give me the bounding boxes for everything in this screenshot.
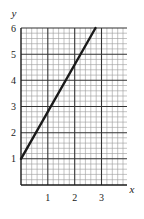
y-tick-6: 6: [11, 23, 16, 34]
y-tick-5: 5: [11, 49, 16, 60]
x-tick-1: 1: [45, 192, 50, 203]
x-tick-2: 2: [72, 192, 77, 203]
graph-figure: 6 5 4 3 2 1 1 2 3 y x: [0, 0, 144, 219]
y-tick-1: 1: [11, 153, 16, 164]
x-tick-3: 3: [99, 192, 104, 203]
y-tick-2: 2: [11, 127, 16, 138]
y-tick-3: 3: [11, 101, 16, 112]
y-tick-4: 4: [11, 75, 16, 86]
coordinate-plane-svg: 6 5 4 3 2 1 1 2 3 y x: [0, 0, 144, 219]
x-axis-label: x: [129, 183, 135, 195]
y-axis-label: y: [11, 7, 17, 19]
